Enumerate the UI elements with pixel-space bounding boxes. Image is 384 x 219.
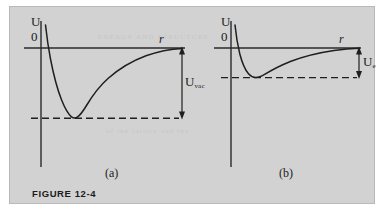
panel-b-energy-label-main: U [363,54,372,69]
panel-b-energy-label: Ue [363,55,376,68]
panel-a-energy-label-sub: vac [194,82,204,90]
panel-a-origin-label: 0 [31,30,38,43]
panel-b-energy-arrow [356,47,362,80]
panel-a-energy-label-main: U [185,74,194,89]
panel-a-y-axis-label: U [31,15,40,28]
panel-b-origin-label: 0 [221,30,228,43]
panel-b-plot [209,7,384,205]
panel-b-caption: (b) [279,167,293,179]
panel-a-caption: (a) [105,167,118,179]
figure-plate: ENERGY AND STRUCTURE of the lattice and … [9,6,375,204]
panel-b-y-axis-label: U [221,15,230,28]
figure-caption: FIGURE 12-4 [32,188,96,199]
panel-a-energy-label: Uvac [185,75,205,88]
panel-b-x-axis-label: r [339,33,344,45]
figure-12-4: ENERGY AND STRUCTURE of the lattice and … [0,0,384,219]
panel-b-energy-label-sub: e [372,62,375,70]
panel-b: U 0 r Ue (b) [209,7,384,205]
panel-a-x-axis-label: r [159,33,164,45]
panel-a: U 0 r Uvac (a) [19,7,209,205]
